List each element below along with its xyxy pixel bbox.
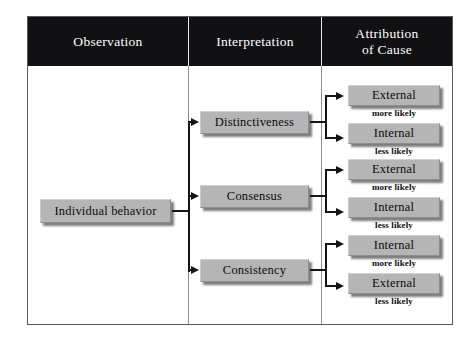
attribution-outcome: Internal less likely (348, 197, 440, 230)
attribution-box: External (348, 273, 440, 294)
arrowhead-to-attribution (336, 282, 344, 290)
interpretation-box-label: Consensus (227, 189, 282, 204)
attribution-box: Internal (348, 123, 440, 144)
attribution-box-label: External (372, 276, 416, 291)
arrowhead-to-attribution (336, 208, 344, 216)
arrowhead-to-attribution (336, 134, 344, 142)
column-header-interpretation-line-1: Interpretation (216, 34, 294, 49)
attribution-box-label: External (372, 162, 416, 177)
attribution-outcome: Internal less likely (348, 123, 440, 156)
observation-box-individual-behavior: Individual behavior (40, 199, 171, 223)
attribution-box-label: Internal (374, 200, 414, 215)
attribution-likelihood-caption: less likely (348, 296, 440, 306)
column-header-attribution-of-cause: Attribution of Cause (321, 17, 452, 66)
attribution-outcome: External less likely (348, 273, 440, 306)
interpretation-box-label: Consistency (223, 263, 286, 278)
interpretation-box-distinctiveness: Distinctiveness (200, 111, 309, 134)
arrowhead-to-consistency (191, 266, 199, 274)
attribution-likelihood-caption: more likely (348, 108, 440, 118)
attribution-outcome: Internal more likely (348, 235, 440, 268)
column-header-interpretation: Interpretation (188, 17, 321, 66)
attribution-box: Internal (348, 197, 440, 218)
connector-trunk-vertical (188, 122, 190, 272)
arrowhead-to-distinctiveness (191, 118, 199, 126)
attribution-outcome: External more likely (348, 85, 440, 118)
connector-consensus-stem (310, 195, 326, 197)
arrowhead-to-consensus (191, 192, 199, 200)
observation-box-label: Individual behavior (54, 204, 156, 219)
connector-consistency-split (325, 243, 327, 287)
attribution-likelihood-caption: less likely (348, 220, 440, 230)
attribution-box-label: Internal (374, 126, 414, 141)
attribution-likelihood-caption: more likely (348, 182, 440, 192)
interpretation-box-consistency: Consistency (200, 259, 309, 282)
attribution-likelihood-caption: more likely (348, 258, 440, 268)
interpretation-box-consensus: Consensus (200, 185, 309, 208)
attribution-theory-diagram: Observation Interpretation Attribution o… (27, 16, 453, 325)
connector-consistency-stem (310, 269, 326, 271)
column-header-observation-line-1: Observation (73, 34, 142, 49)
attribution-box-label: Internal (374, 238, 414, 253)
interpretation-box-label: Distinctiveness (215, 115, 294, 130)
arrowhead-to-attribution (336, 166, 344, 174)
arrowhead-to-attribution (336, 92, 344, 100)
attribution-box: Internal (348, 235, 440, 256)
diagram-header-row: Observation Interpretation Attribution o… (28, 17, 452, 66)
attribution-box-label: External (372, 88, 416, 103)
attribution-box: External (348, 85, 440, 106)
connector-observation-to-trunk (172, 210, 189, 212)
attribution-outcome: External more likely (348, 159, 440, 192)
column-header-attribution-line-1: Attribution (355, 26, 418, 41)
column-header-attribution-line-2: of Cause (355, 42, 418, 57)
column-header-observation: Observation (28, 17, 188, 66)
connector-distinctiveness-stem (310, 121, 326, 123)
arrowhead-to-attribution (336, 240, 344, 248)
connector-distinctiveness-split (325, 95, 327, 139)
attribution-box: External (348, 159, 440, 180)
connector-consensus-split (325, 169, 327, 213)
attribution-likelihood-caption: less likely (348, 146, 440, 156)
